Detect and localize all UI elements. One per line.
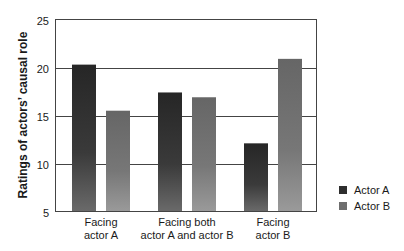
legend-label: Actor B: [354, 200, 390, 212]
bar-actor-b: [278, 59, 302, 212]
legend-item-actor-a: Actor A: [339, 182, 390, 198]
y-tick-label: 25: [37, 15, 49, 27]
legend-swatch-actor-b: [339, 202, 347, 210]
bar-actor-a: [244, 143, 268, 211]
bars: [72, 59, 302, 212]
x-category-label: Facingactor B: [213, 216, 333, 242]
bar-actor-a: [158, 92, 182, 211]
bar-actor-b: [106, 111, 130, 212]
bar-actor-b: [192, 97, 216, 211]
y-tick-label: 15: [37, 111, 49, 123]
y-tick-label: 20: [37, 63, 49, 75]
legend-label: Actor A: [354, 184, 389, 196]
legend-swatch-actor-a: [339, 186, 347, 194]
y-tick-label: 10: [37, 159, 49, 171]
legend: Actor A Actor B: [339, 182, 390, 214]
y-axis-ticks: 510152025: [37, 15, 49, 219]
bar-actor-a: [72, 65, 96, 212]
y-axis-label: Ratings of actors’ causal role: [16, 30, 30, 200]
legend-item-actor-b: Actor B: [339, 198, 390, 214]
